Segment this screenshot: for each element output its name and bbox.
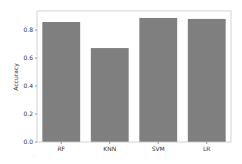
x-tick-label: LR	[203, 145, 211, 152]
x-tick-label: KNN	[103, 145, 116, 152]
stray-mark: -	[33, 153, 35, 158]
y-axis: 0.00.20.40.60.8	[23, 26, 37, 145]
x-axis: RFKNNSVMLR	[57, 142, 210, 152]
bar-svm	[139, 18, 177, 142]
y-tick-label: 0.8	[23, 26, 33, 33]
bar-knn	[91, 48, 129, 142]
x-tick-label: RF	[57, 145, 65, 152]
y-axis-label: Accuracy	[12, 63, 20, 91]
bars-group	[42, 18, 225, 142]
bar-rf	[42, 22, 80, 142]
bar-chart: 0.00.20.40.60.8 RFKNNSVMLR Accuracy -	[0, 0, 242, 164]
bar-lr	[188, 19, 226, 142]
y-tick-label: 0.2	[23, 110, 33, 117]
y-tick-label: 0.6	[23, 54, 33, 61]
y-tick-label: 0.0	[23, 138, 33, 145]
y-tick-label: 0.4	[23, 82, 33, 89]
x-tick-label: SVM	[152, 145, 165, 152]
